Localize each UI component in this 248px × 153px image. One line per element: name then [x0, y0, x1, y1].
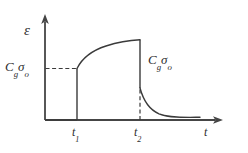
- curve-segment-delayed-recovery: [140, 88, 200, 117]
- t1-sub: 1: [75, 135, 79, 144]
- x-tick-label-t2: t2: [134, 126, 141, 138]
- cg-sigma-right-sigma: σ: [161, 52, 167, 67]
- creep-recovery-plot: [0, 0, 248, 153]
- creep-recovery-figure: ε Cgσo Cgσo t1 t2 t: [0, 0, 248, 153]
- cg-sigma-right-c-sub: g: [157, 62, 161, 72]
- t2-sub: 2: [137, 135, 141, 144]
- curve-segment-creep: [77, 40, 140, 69]
- label-cg-sigma-elastic-recovery: Cgσo: [148, 53, 172, 66]
- cg-sigma-left-sigma: σ: [18, 59, 24, 74]
- cg-sigma-left-sigma-sub: o: [25, 69, 29, 79]
- cg-sigma-right-sigma-sub: o: [168, 62, 172, 72]
- cg-sigma-left-c-sub: g: [14, 69, 18, 79]
- y-axis: [41, 14, 49, 120]
- cg-sigma-right-c: C: [148, 52, 157, 67]
- y-axis-label: ε: [24, 23, 30, 38]
- label-cg-sigma-elastic-strain: Cgσo: [5, 60, 29, 73]
- x-axis-label: t: [204, 126, 207, 138]
- cg-sigma-left-c: C: [5, 59, 14, 74]
- x-tick-label-t1: t1: [72, 126, 79, 138]
